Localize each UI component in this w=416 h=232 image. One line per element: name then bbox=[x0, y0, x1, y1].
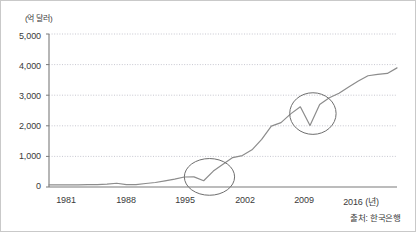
highlight-circle-2008 bbox=[290, 93, 336, 135]
chart-plot-area bbox=[1, 1, 416, 232]
data-series-line bbox=[49, 68, 397, 185]
chart-figure: (억 달러) 5,000 4,000 3,000 2,000 1,000 0 1… bbox=[0, 0, 416, 232]
annotations-group bbox=[184, 93, 336, 196]
gridlines-group bbox=[49, 34, 397, 156]
